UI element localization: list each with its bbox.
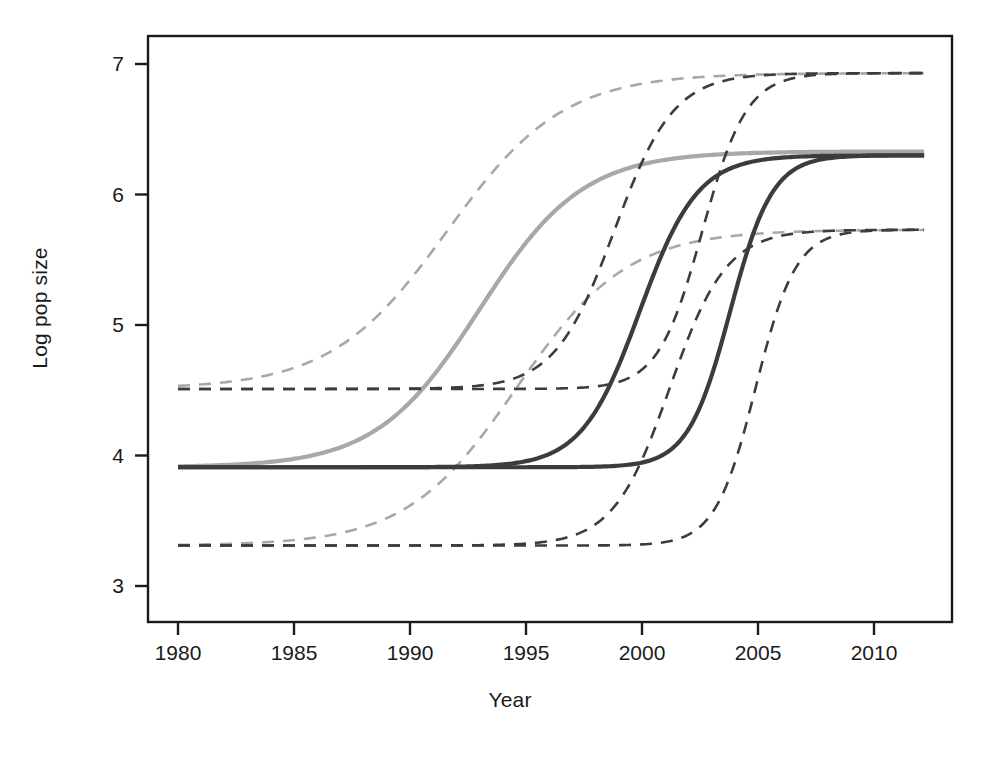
x-axis-tick-label: 1995	[503, 641, 550, 664]
x-axis-tick-label: 1985	[271, 641, 318, 664]
y-axis-tick-label: 6	[112, 183, 124, 206]
y-axis-tick-label: 4	[112, 444, 124, 467]
x-axis-tick-label: 2005	[735, 641, 782, 664]
x-axis-tick-label: 2000	[619, 641, 666, 664]
figure-container: 345671980198519901995200020052010 Log po…	[0, 0, 984, 760]
y-axis-tick-label: 7	[112, 52, 124, 75]
x-axis-tick-label: 1980	[155, 641, 202, 664]
logistic-growth-chart: 345671980198519901995200020052010	[0, 0, 984, 760]
x-axis-tick-label: 2010	[851, 641, 898, 664]
y-axis-tick-label: 5	[112, 313, 124, 336]
y-axis-tick-label: 3	[112, 574, 124, 597]
x-axis-tick-label: 1990	[387, 641, 434, 664]
x-axis-title: Year	[460, 688, 560, 712]
y-axis-title: Log pop size	[28, 213, 52, 403]
